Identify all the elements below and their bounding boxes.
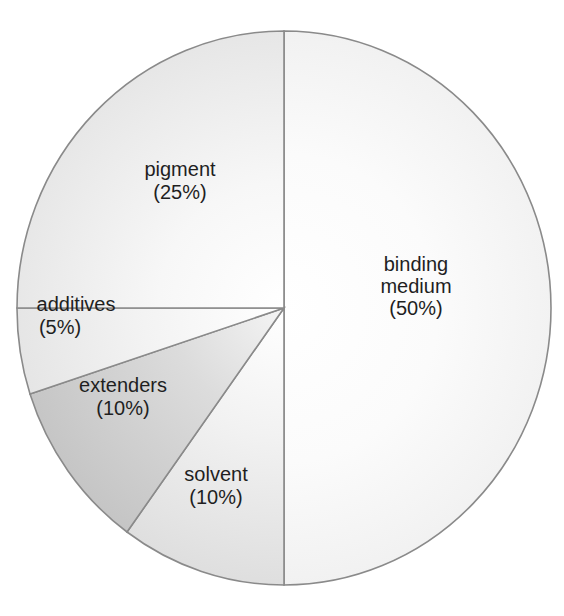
label-solvent-name: solvent <box>184 463 248 485</box>
label-pigment-name: pigment <box>144 158 216 180</box>
label-binding-medium: binding medium (50%) <box>380 253 451 319</box>
label-extenders-name: extenders <box>79 374 167 396</box>
label-binding-medium-line1: binding <box>384 253 449 275</box>
label-pigment-value: (25%) <box>153 181 206 203</box>
label-additives-value: (5%) <box>39 316 81 338</box>
label-solvent-value: (10%) <box>189 486 242 508</box>
pie-chart: pigment (25%) binding medium (50%) addit… <box>0 0 564 616</box>
label-binding-medium-value: (50%) <box>389 297 442 319</box>
label-binding-medium-line2: medium <box>380 275 451 297</box>
label-solvent: solvent (10%) <box>184 463 248 508</box>
label-extenders-value: (10%) <box>96 397 149 419</box>
label-additives-name: additives <box>37 293 116 315</box>
label-pigment: pigment (25%) <box>144 158 216 203</box>
